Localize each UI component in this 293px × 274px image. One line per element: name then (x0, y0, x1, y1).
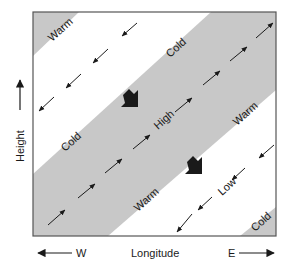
jet-stream-diagram: Warm Cold Cold High Warm Warm Low Cold H… (0, 0, 293, 274)
east-label: E (228, 247, 235, 259)
x-axis-label: Longitude (131, 247, 179, 259)
y-axis: Height (14, 80, 26, 162)
y-axis-label: Height (14, 130, 26, 162)
west-label: W (76, 247, 87, 259)
x-axis: W Longitude E (38, 247, 274, 259)
